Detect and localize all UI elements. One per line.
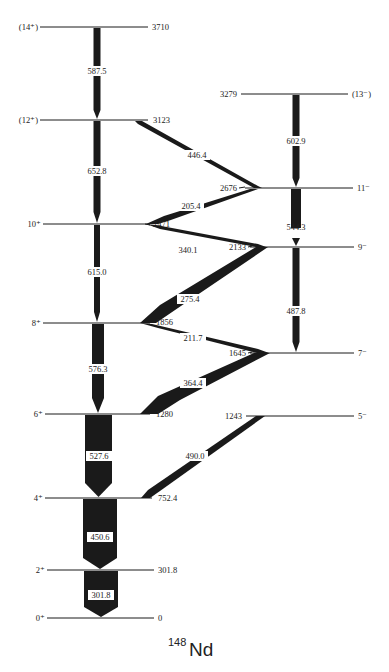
energy-label-3710: 3710 xyxy=(152,22,169,32)
gamma-label-652-8: 652.8 xyxy=(87,166,106,176)
gamma-label-301-8: 301.8 xyxy=(91,590,110,600)
spin-label-0: 0⁺ xyxy=(36,613,45,623)
gamma-label-446-4: 446.4 xyxy=(187,150,207,160)
energy-label-752: 752.4 xyxy=(158,493,178,503)
tick xyxy=(239,187,245,188)
spin-label-1280: 6⁺ xyxy=(34,409,43,419)
gsb-spin-labels: (14⁺) (12⁺) 10⁺ 8⁺ 6⁺ 4⁺ 2⁺ 0⁺ xyxy=(19,22,45,623)
gamma-label-587-5: 587.5 xyxy=(87,66,106,76)
gsb-energy-labels: 3710 3123 2471 1856 1280 752.4 301.8 0 xyxy=(152,22,178,623)
spin-label-1856: 8⁺ xyxy=(32,318,41,328)
spin-label-3123: (12⁺) xyxy=(19,115,38,125)
neg-spin-labels: (13⁻) 11⁻ 9⁻ 7⁻ 5⁻ xyxy=(352,89,371,421)
gamma-label-450-6: 450.6 xyxy=(90,532,109,542)
interband-gammas xyxy=(135,121,270,498)
energy-label-3279: 3279 xyxy=(220,89,237,99)
energy-label-2676: 2676 xyxy=(220,183,237,193)
spin-label-2133: 9⁻ xyxy=(358,242,367,252)
spin-label-3710: (14⁺) xyxy=(19,22,38,32)
energy-label-1856: 1856 xyxy=(156,317,173,327)
energy-label-2471: 2471 xyxy=(153,219,170,229)
gamma-label-205-4: 205.4 xyxy=(181,201,201,211)
gamma-label-487-8: 487.8 xyxy=(286,306,305,316)
energy-label-2133: 2133 xyxy=(229,242,246,252)
spin-label-1243: 5⁻ xyxy=(358,411,367,421)
gamma-label-615-0: 615.0 xyxy=(87,267,106,277)
energy-label-302: 301.8 xyxy=(158,565,177,575)
nucleus-title: 148 Nd xyxy=(168,636,213,660)
nucleus-symbol: Nd xyxy=(189,639,213,660)
gamma-arrow-275-4 xyxy=(140,247,268,323)
spin-label-752: 4⁺ xyxy=(34,493,43,503)
gamma-label-527-6: 527.6 xyxy=(89,451,108,461)
energy-label-1645: 1645 xyxy=(229,348,246,358)
spin-label-1645: 7⁻ xyxy=(358,348,367,358)
gamma-label-602-9: 602.9 xyxy=(286,136,305,146)
spin-label-2676: 11⁻ xyxy=(357,183,370,193)
spin-label-302: 2⁺ xyxy=(36,565,45,575)
energy-label-1280: 1280 xyxy=(156,409,173,419)
spin-label-3279: (13⁻) xyxy=(352,89,371,99)
gamma-arrow-487-8 xyxy=(293,248,300,352)
gamma-label-576-3: 576.3 xyxy=(88,364,107,374)
gamma-label-211-7: 211.7 xyxy=(184,333,203,343)
energy-label-3123: 3123 xyxy=(153,115,170,125)
gamma-label-340-1: 340.1 xyxy=(178,245,197,255)
energy-label-0: 0 xyxy=(158,613,162,623)
gamma-label-275-4: 275.4 xyxy=(180,294,200,304)
spin-label-2471: 10⁺ xyxy=(28,219,42,229)
nucleus-mass-number: 148 xyxy=(168,636,186,648)
gamma-label-544-3: 544.3 xyxy=(286,222,305,232)
energy-label-1243: 1243 xyxy=(225,411,242,421)
gamma-label-364-4: 364.4 xyxy=(183,378,203,388)
level-scheme-diagram: (14⁺) (12⁺) 10⁺ 8⁺ 6⁺ 4⁺ 2⁺ 0⁺ 3710 3123… xyxy=(0,0,389,672)
gamma-label-490-0: 490.0 xyxy=(185,451,204,461)
gamma-labels: 587.5 652.8 615.0 576.3 527.6 450.6 301.… xyxy=(84,66,309,600)
